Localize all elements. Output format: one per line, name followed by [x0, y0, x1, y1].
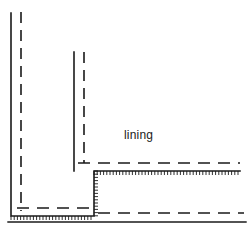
figure-container: lining — [0, 0, 252, 241]
lining-label: lining — [124, 128, 153, 142]
solid-profile-group — [8, 13, 246, 222]
dashed-lines-group — [17, 12, 244, 213]
solid-stepped-profile — [11, 13, 240, 216]
hatch-step-riser — [94, 171, 98, 216]
lining-section-drawing: lining — [0, 0, 252, 241]
